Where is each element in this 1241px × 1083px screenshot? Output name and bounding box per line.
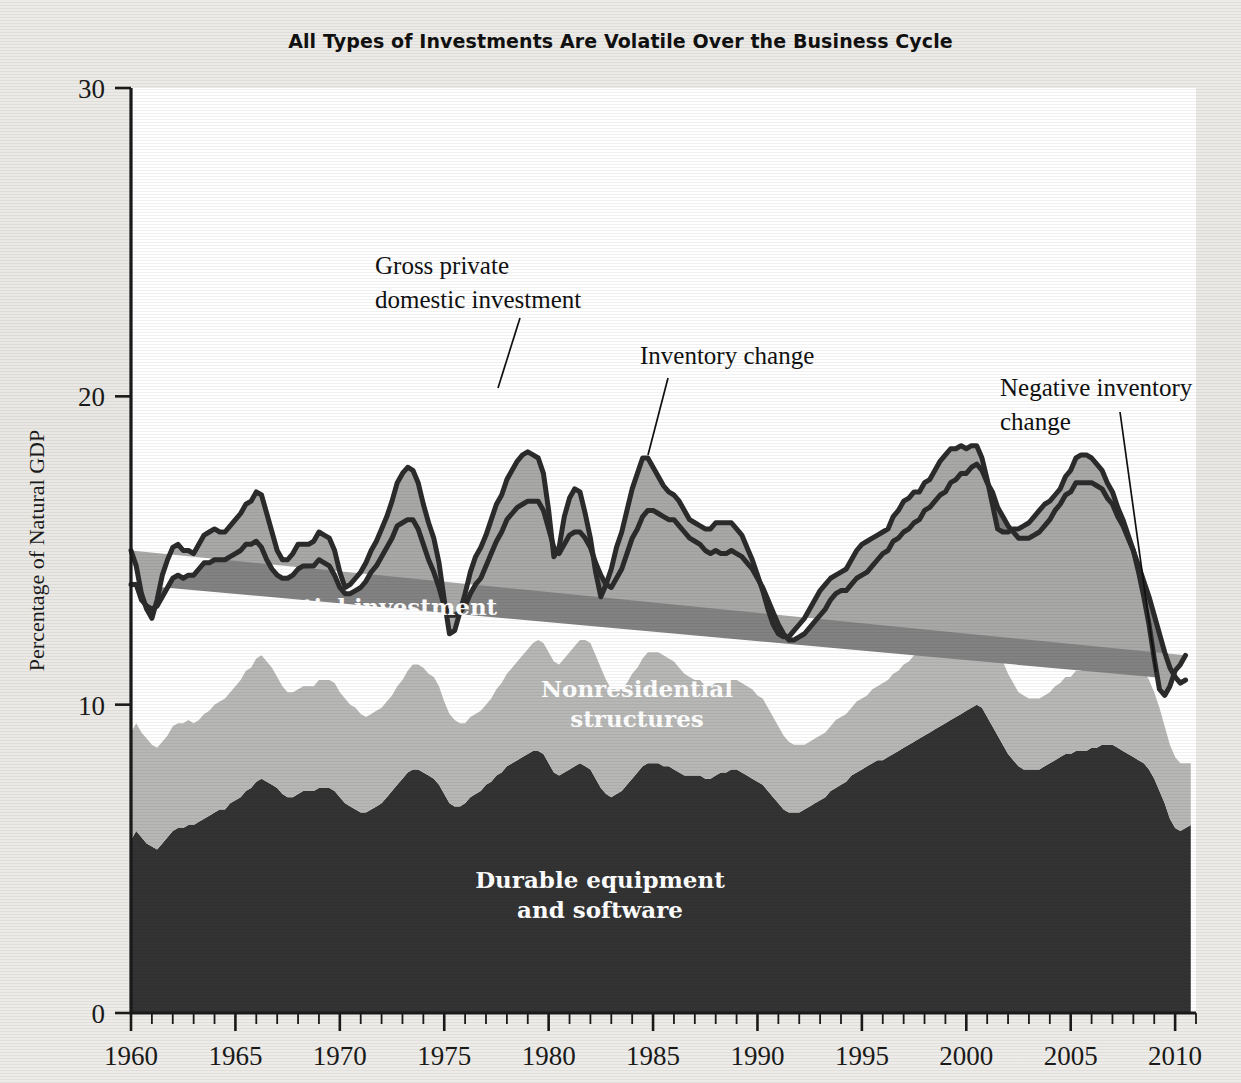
x-tick-label: 1970 [313,1041,367,1071]
x-tick-label: 2005 [1044,1041,1098,1071]
x-tick-label: 1985 [626,1041,680,1071]
stacked-area-chart: 0102030196019651970197519801985199019952… [0,0,1241,1083]
figure-background: All Types of Investments Are Volatile Ov… [0,0,1241,1083]
chart-area: 0102030196019651970197519801985199019952… [0,0,1241,1083]
y-tick-label: 0 [92,999,106,1029]
x-tick-label: 1990 [730,1041,784,1071]
y-tick-label: 20 [78,382,105,412]
x-tick-label: 2000 [939,1041,993,1071]
x-tick-label: 2010 [1148,1041,1202,1071]
y-axis-title: Percentage of Natural GDP [24,430,49,671]
x-tick-label: 1995 [835,1041,889,1071]
y-tick-label: 30 [78,74,105,104]
x-tick-label: 1960 [104,1041,158,1071]
x-tick-label: 1965 [208,1041,262,1071]
y-tick-label: 10 [78,691,105,721]
x-tick-label: 1975 [417,1041,471,1071]
inline-label-residential-investment: Residential investment [200,593,498,620]
annotation-inventory-change: Inventory change [640,342,814,369]
x-tick-label: 1980 [522,1041,576,1071]
